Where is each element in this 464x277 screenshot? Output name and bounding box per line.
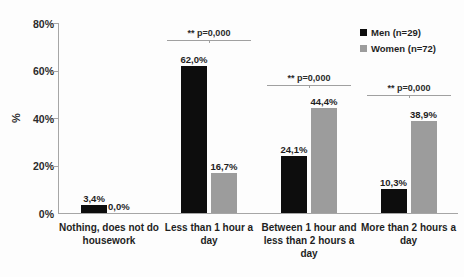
bar-group-less-than-1-hour: ** p=0,000 62,0% 16,7% bbox=[159, 23, 259, 213]
bar-value-men-nothing: 3,4% bbox=[83, 193, 105, 204]
bar-women-less-than-1-hour[interactable] bbox=[211, 173, 237, 213]
x-axis-line bbox=[58, 213, 458, 214]
y-tick-label-20: 20% bbox=[18, 161, 54, 171]
y-tick-label-0: 0% bbox=[18, 209, 54, 219]
legend-swatch-women-icon bbox=[360, 45, 367, 52]
bar-value-men-more-than-2-hours: 10,3% bbox=[380, 177, 407, 188]
bar-group-between-1-and-2-hours: ** p=0,000 24,1% 44,4% bbox=[259, 23, 359, 213]
bar-men-between-1-and-2-hours[interactable] bbox=[281, 156, 307, 213]
y-tick-label-60: 60% bbox=[18, 66, 54, 76]
x-label-between-1-and-2-hours: Between 1 hour and less than 2 hours a d… bbox=[259, 221, 359, 260]
legend-label-men: Men (n=29) bbox=[371, 27, 421, 38]
bar-women-between-1-and-2-hours[interactable] bbox=[311, 108, 337, 213]
legend-item-women[interactable]: Women (n=72) bbox=[360, 43, 436, 54]
y-tick-mark-40 bbox=[53, 118, 58, 119]
y-tick-label-40: 40% bbox=[18, 114, 54, 124]
bar-value-men-less-than-1-hour: 62,0% bbox=[181, 54, 208, 65]
y-tick-mark-20 bbox=[53, 166, 58, 167]
bar-holder-men-nothing: 3,4% 0,0% bbox=[81, 23, 107, 213]
bar-holder-women-nothing bbox=[111, 23, 137, 213]
x-label-less-than-1-hour: Less than 1 hour a day bbox=[159, 221, 259, 247]
bar-holder-men-less-than-1-hour: 62,0% bbox=[181, 23, 207, 213]
x-label-nothing: Nothing, does not do housework bbox=[59, 221, 159, 247]
bar-holder-women-less-than-1-hour: 16,7% bbox=[211, 23, 237, 213]
bar-chart: % 80% 60% 40% 20% 0% 3,4% 0,0% bbox=[0, 0, 464, 277]
bar-men-more-than-2-hours[interactable] bbox=[381, 189, 407, 213]
bar-holder-women-between-1-and-2-hours: 44,4% bbox=[311, 23, 337, 213]
x-label-more-than-2-hours: More than 2 hours a day bbox=[359, 221, 458, 247]
legend-label-women: Women (n=72) bbox=[371, 43, 436, 54]
bar-group-nothing: 3,4% 0,0% bbox=[59, 23, 159, 213]
bar-women-more-than-2-hours[interactable] bbox=[411, 121, 437, 213]
bar-value-men-between-1-and-2-hours: 24,1% bbox=[281, 144, 308, 155]
y-tick-mark-80 bbox=[53, 23, 58, 24]
legend-swatch-men-icon bbox=[360, 29, 367, 36]
legend: Men (n=29) Women (n=72) bbox=[360, 27, 436, 59]
y-tick-label-80: 80% bbox=[18, 19, 54, 29]
bar-value-women-less-than-1-hour: 16,7% bbox=[211, 161, 238, 172]
bar-value-women-between-1-and-2-hours: 44,4% bbox=[311, 96, 338, 107]
legend-item-men[interactable]: Men (n=29) bbox=[360, 27, 436, 38]
bar-men-less-than-1-hour[interactable] bbox=[181, 66, 207, 213]
bar-value-women-more-than-2-hours: 38,9% bbox=[410, 109, 437, 120]
bar-holder-men-between-1-and-2-hours: 24,1% bbox=[281, 23, 307, 213]
y-tick-mark-60 bbox=[53, 71, 58, 72]
bar-men-nothing[interactable] bbox=[81, 205, 107, 213]
